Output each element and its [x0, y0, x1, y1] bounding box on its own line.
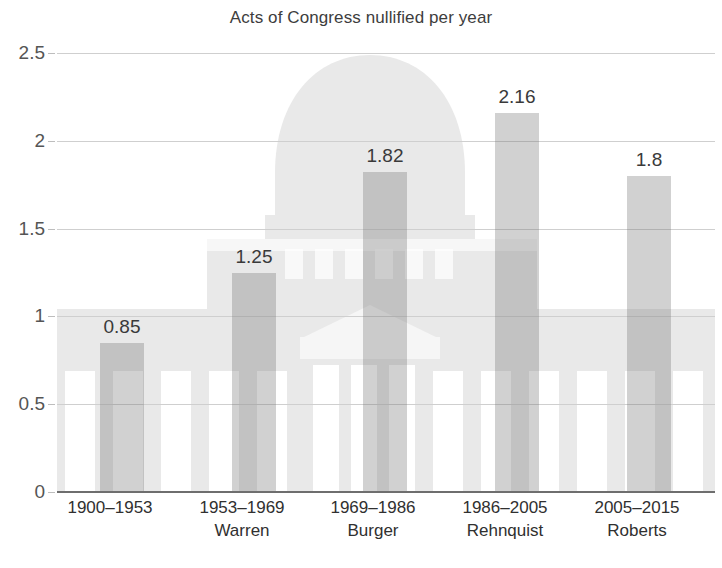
x-tick-name: Warren: [166, 520, 318, 543]
y-axis: 0 0.5 1 1.5 2 2.5: [0, 53, 50, 492]
x-tick-name: Rehnquist: [429, 520, 581, 543]
bar-value-label-1953-1969: 1.25: [214, 246, 294, 268]
x-tick-1900-1953: 1900–1953: [34, 497, 186, 520]
bar-value-label-1900-1953: 0.85: [82, 316, 162, 338]
y-tick-label-2.5: 2.5: [0, 42, 45, 64]
bar-value-label-2005-2015: 1.8: [609, 149, 689, 171]
x-tick-range: 1969–1986: [297, 497, 449, 520]
gridline-2.5: [57, 53, 715, 54]
x-tick-1986-2005: 1986–2005 Rehnquist: [429, 497, 581, 542]
gridline-2: [57, 141, 715, 142]
y-tick-mark: [48, 53, 55, 54]
x-tick-range: 2005–2015: [561, 497, 713, 520]
chart-page: Acts of Congress nullified per year 0 0.…: [0, 0, 722, 568]
bar-1969-1986[interactable]: [363, 172, 407, 492]
bar-1953-1969[interactable]: [232, 273, 276, 493]
y-tick-mark: [48, 141, 55, 142]
y-tick-label-0.5: 0.5: [0, 393, 45, 415]
x-tick-range: 1986–2005: [429, 497, 581, 520]
x-tick-name: Burger: [297, 520, 449, 543]
x-tick-range: 1953–1969: [166, 497, 318, 520]
bar-2005-2015[interactable]: [627, 176, 671, 492]
bar-1986-2005[interactable]: [495, 113, 539, 492]
y-tick-label-2: 2: [0, 130, 45, 152]
y-tick-mark: [48, 492, 55, 493]
y-tick-mark: [48, 229, 55, 230]
x-tick-2005-2015: 2005–2015 Roberts: [561, 497, 713, 542]
x-tick-1969-1986: 1969–1986 Burger: [297, 497, 449, 542]
bar-value-label-1986-2005: 2.16: [477, 86, 557, 108]
y-tick-mark: [48, 404, 55, 405]
bar-1900-1953[interactable]: [100, 343, 144, 492]
y-tick-mark: [48, 316, 55, 317]
page-title: Acts of Congress nullified per year: [0, 8, 722, 28]
bar-value-label-1969-1986: 1.82: [345, 145, 425, 167]
x-tick-1953-1969: 1953–1969 Warren: [166, 497, 318, 542]
y-tick-label-1: 1: [0, 305, 45, 327]
plot-area: 0.85 1.25 1.82 2.16 1.8: [57, 53, 715, 492]
x-tick-range: 1900–1953: [34, 497, 186, 520]
x-tick-name: Roberts: [561, 520, 713, 543]
y-tick-label-1.5: 1.5: [0, 218, 45, 240]
